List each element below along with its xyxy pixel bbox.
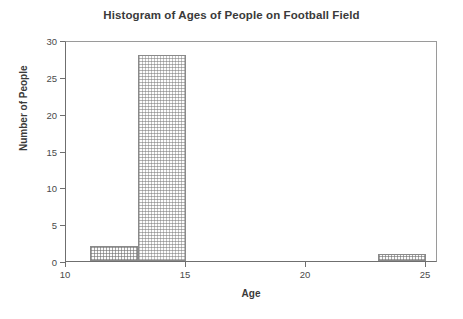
y-tick-mark (60, 188, 65, 189)
y-tick-mark (60, 225, 65, 226)
y-tick-mark (60, 152, 65, 153)
y-tick-label: 5 (52, 220, 57, 231)
x-tick-mark (305, 262, 306, 267)
histogram-bar (90, 246, 138, 261)
y-axis-title: Number of People (18, 65, 29, 151)
y-tick-label: 10 (46, 183, 57, 194)
y-axis: 051015202530 (0, 41, 65, 262)
x-tick-label: 25 (420, 269, 431, 280)
chart-title: Histogram of Ages of People on Football … (0, 9, 463, 21)
x-axis-title: Age (65, 288, 437, 299)
y-tick-mark (60, 78, 65, 79)
x-tick-label: 15 (180, 269, 191, 280)
y-tick-label: 20 (46, 109, 57, 120)
x-tick-mark (185, 262, 186, 267)
x-axis: 10152025 (65, 262, 438, 286)
y-tick-mark (60, 41, 65, 42)
plot-area (66, 42, 436, 261)
x-tick-mark (425, 262, 426, 267)
histogram-figure: Histogram of Ages of People on Football … (0, 0, 463, 319)
histogram-bar (378, 254, 426, 261)
y-tick-label: 15 (46, 146, 57, 157)
y-tick-label: 25 (46, 72, 57, 83)
plot-frame (65, 41, 437, 262)
y-tick-label: 0 (52, 257, 57, 268)
x-tick-label: 10 (60, 269, 71, 280)
x-tick-mark (65, 262, 66, 267)
x-tick-label: 20 (300, 269, 311, 280)
y-tick-label: 30 (46, 36, 57, 47)
y-tick-mark (60, 115, 65, 116)
histogram-bar (138, 55, 186, 261)
